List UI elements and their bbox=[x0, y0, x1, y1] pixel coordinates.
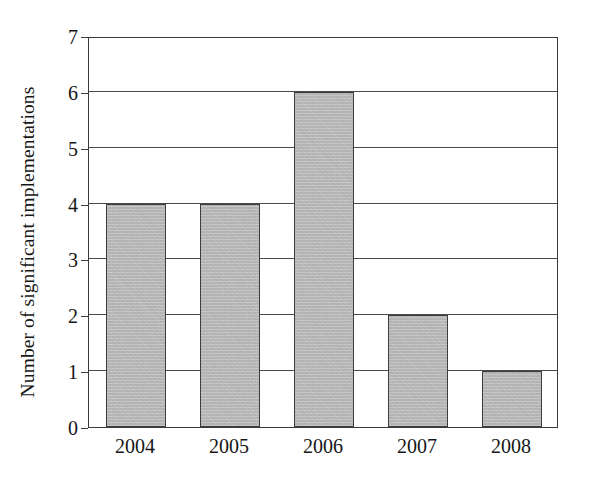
y-axis-tick-label: 6 bbox=[68, 83, 78, 103]
y-axis-tick-mark bbox=[81, 205, 88, 206]
y-axis-tick-label: 0 bbox=[68, 418, 78, 438]
x-axis-tick-label: 2008 bbox=[471, 436, 551, 456]
x-axis-tick-label: 2005 bbox=[189, 436, 269, 456]
y-axis-tick-label: 4 bbox=[68, 195, 78, 215]
y-axis-tick-mark bbox=[81, 260, 88, 261]
y-axis-tick-mark bbox=[81, 428, 88, 429]
y-axis-tick-mark bbox=[81, 93, 88, 94]
bar bbox=[388, 315, 448, 427]
y-axis-tick-labels: 01234567 bbox=[52, 0, 78, 484]
y-axis-tick-mark bbox=[81, 316, 88, 317]
y-axis-tick-label: 1 bbox=[68, 362, 78, 382]
x-axis-tick-label: 2006 bbox=[283, 436, 363, 456]
x-axis-tick-label: 2007 bbox=[377, 436, 457, 456]
bar-chart-figure: Number of significant implementations 01… bbox=[0, 0, 589, 484]
x-axis-tick-label: 2004 bbox=[95, 436, 175, 456]
y-axis-tick-mark bbox=[81, 149, 88, 150]
y-axis-tick-label: 7 bbox=[68, 27, 78, 47]
y-axis-title: Number of significant implementations bbox=[0, 0, 56, 484]
bar bbox=[200, 204, 260, 427]
plot-area bbox=[88, 37, 558, 428]
y-axis-tick-mark bbox=[81, 37, 88, 38]
y-axis-tick-label: 3 bbox=[68, 250, 78, 270]
y-axis-tick-label: 2 bbox=[68, 306, 78, 326]
bar bbox=[482, 371, 542, 427]
bar bbox=[294, 92, 354, 427]
bar bbox=[106, 204, 166, 427]
y-axis-tick-mark bbox=[81, 372, 88, 373]
y-axis-tick-label: 5 bbox=[68, 139, 78, 159]
